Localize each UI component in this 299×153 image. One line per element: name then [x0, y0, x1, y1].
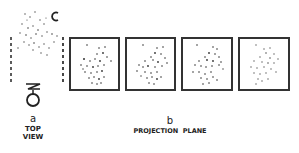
rotation-arrow-icon — [52, 13, 58, 21]
eye-viewer-icon — [27, 94, 39, 106]
projection-frame-1 — [69, 37, 120, 91]
projection-frame-4 — [238, 37, 290, 91]
panel-a-title-line1: TOP — [16, 125, 50, 133]
panel-a-letter: a — [20, 113, 46, 124]
projection-frame-3 — [181, 37, 233, 91]
panel-b-letter: b — [160, 115, 180, 126]
spring-icon — [26, 84, 40, 89]
panel-a-title-line2: VIEW — [16, 133, 50, 141]
panel-b-title: PROJECTION PLANE — [120, 127, 220, 135]
projection-frame-2 — [125, 37, 176, 91]
